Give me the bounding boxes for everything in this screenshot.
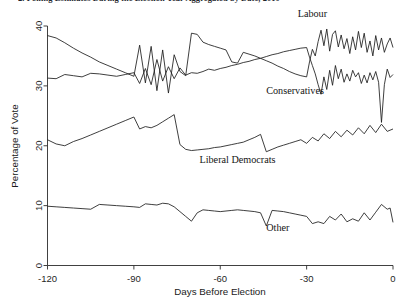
y-tick-label: 0 xyxy=(33,263,44,268)
y-tick-label: 10 xyxy=(33,200,44,211)
x-axis-ticks: -120-90-60-300 xyxy=(38,266,396,284)
y-tick-label: 30 xyxy=(33,81,44,92)
line-chart-plot: 010203040 Percentage of Vote -120-90-60-… xyxy=(0,0,410,307)
series-line-conservatives xyxy=(48,48,394,123)
x-tick-label: -30 xyxy=(300,273,314,284)
x-axis-group: -120-90-60-300 Days Before Election xyxy=(38,266,396,298)
series-line-liberal-democrats xyxy=(48,115,394,152)
y-tick-label: 20 xyxy=(33,140,44,151)
series-label-liberal-democrats: Liberal Democrats xyxy=(199,154,275,165)
series-label-other: Other xyxy=(266,222,290,233)
x-tick-label: 0 xyxy=(390,273,395,284)
series-label-labour: Labour xyxy=(298,8,328,19)
series-labels-group: LabourConservativesLiberal DemocratsOthe… xyxy=(199,8,327,233)
y-axis-group: 010203040 Percentage of Vote xyxy=(9,21,48,268)
chart-figure: 2. Polling Estimates During the Election… xyxy=(0,0,410,307)
x-tick-label: -120 xyxy=(38,273,57,284)
series-lines-group xyxy=(48,29,394,226)
x-tick-label: -60 xyxy=(213,273,227,284)
y-axis-ticks: 010203040 xyxy=(33,21,48,268)
x-tick-label: -90 xyxy=(127,273,141,284)
series-line-labour xyxy=(48,29,394,93)
series-line-other xyxy=(48,203,394,226)
y-tick-label: 40 xyxy=(33,21,44,32)
series-label-conservatives: Conservatives xyxy=(266,85,324,96)
y-axis-title: Percentage of Vote xyxy=(9,104,20,188)
x-axis-title: Days Before Election xyxy=(174,286,265,297)
